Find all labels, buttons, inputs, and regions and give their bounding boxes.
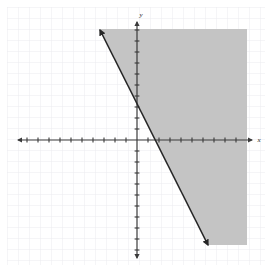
coordinate-graph-figure: x y	[0, 0, 272, 272]
graph-svg-canvas: x y	[0, 0, 272, 272]
